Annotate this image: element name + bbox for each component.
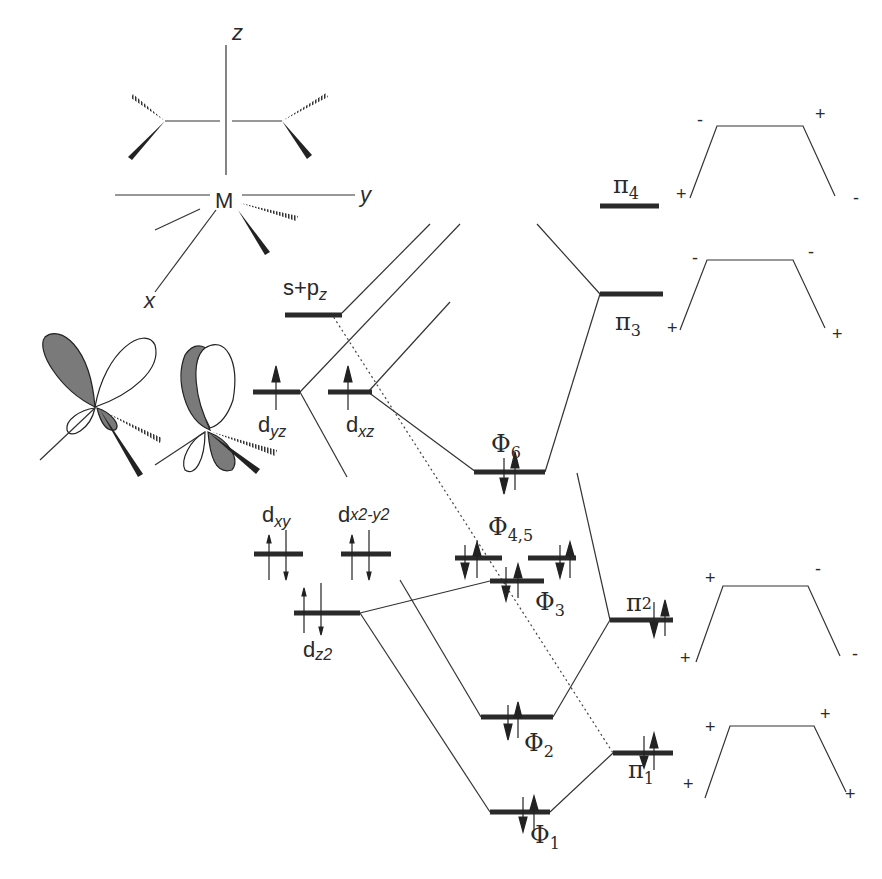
svg-text:+: + <box>815 104 826 124</box>
pictogram-pi1: + + + + <box>683 704 856 804</box>
spin-up-arrow <box>350 535 354 543</box>
spin-down-arrow <box>519 817 527 832</box>
pictogram-pi2: + - + - <box>680 559 858 668</box>
label-dyz: dyz <box>258 412 286 440</box>
hash-bond <box>282 93 328 121</box>
coordinate-frame: z y x M <box>115 20 373 313</box>
spin-up-arrow <box>514 702 522 718</box>
hash-bond <box>131 94 165 121</box>
label-phi45: Φ4,5 <box>488 513 533 545</box>
spin-up-arrow <box>650 733 658 748</box>
label-pi3: π3 <box>615 308 641 340</box>
svg-text:+: + <box>667 318 678 338</box>
spin-down-arrow <box>502 586 510 601</box>
svg-text:+: + <box>820 704 831 724</box>
svg-text:-: - <box>692 248 698 268</box>
label-pi4: π4 <box>613 171 639 203</box>
svg-text:+: + <box>683 774 694 794</box>
label-dx2y2: dx2-y2 <box>338 502 389 527</box>
svg-text:+: + <box>705 717 716 737</box>
spin-down-arrow <box>319 627 323 635</box>
spin-up-arrow <box>473 542 481 556</box>
label-phi6: Φ6 <box>491 430 521 462</box>
spin-down-arrow <box>367 572 371 580</box>
svg-text:+: + <box>705 568 716 588</box>
orbital-labels: s+pz dyz dxz dxy dx2-y2 dz2 Φ6 Φ4,5 Φ3 Φ… <box>258 171 654 853</box>
label-phi3: Φ3 <box>535 588 565 620</box>
label-pi2: π2 <box>626 589 652 617</box>
spin-down-arrow <box>284 572 288 580</box>
svg-text:-: - <box>815 559 821 579</box>
label-dz2: dz2 <box>303 637 332 663</box>
label-pi1: π1 <box>628 756 654 788</box>
svg-text:+: + <box>680 648 691 668</box>
svg-text:+: + <box>676 184 687 204</box>
wedge-bond <box>282 121 312 159</box>
spin-up-arrow <box>344 366 352 382</box>
ligand-bond <box>155 209 200 230</box>
label-phi1: Φ1 <box>530 821 560 853</box>
hash-bond <box>240 203 298 221</box>
label-dxy: dxy <box>262 502 291 530</box>
spin-up-arrow <box>267 535 271 543</box>
spin-down-arrow <box>504 724 512 740</box>
spin-down-arrow <box>556 563 564 578</box>
spin-up-arrow <box>661 600 669 616</box>
mo-diagram: z y x M <box>0 0 882 879</box>
x-axis <box>155 210 216 292</box>
wedge-bond <box>128 121 165 160</box>
svg-text:-: - <box>853 188 859 208</box>
electrons <box>267 366 669 832</box>
label-s-pz: s+pz <box>283 275 327 303</box>
spin-up-arrow <box>530 796 538 810</box>
spin-up-arrow <box>514 564 522 578</box>
z-axis-label: z <box>231 20 243 45</box>
orbital-picture-dxz <box>155 345 277 474</box>
spin-down-arrow <box>650 622 658 637</box>
x-axis-label: x <box>143 288 156 313</box>
metal-label: M <box>215 188 233 213</box>
wedge-bond <box>238 210 270 255</box>
pi-pictograms: - + + - - - + + + - + - + + + + <box>667 104 859 804</box>
svg-text:+: + <box>845 784 856 804</box>
pictogram-pi3: - - + + <box>667 242 843 344</box>
orbital-picture-dyz <box>40 334 162 477</box>
svg-text:-: - <box>808 242 814 262</box>
svg-text:+: + <box>832 324 843 344</box>
spin-down-arrow <box>500 478 508 494</box>
spin-up-arrow <box>566 542 574 556</box>
pictogram-pi4: - + + - <box>676 104 859 208</box>
label-dxz: dxz <box>346 412 374 440</box>
spin-up-arrow <box>302 588 306 596</box>
label-phi2: Φ2 <box>524 729 554 761</box>
y-axis-label: y <box>358 182 373 207</box>
svg-text:-: - <box>852 644 858 664</box>
spin-down-arrow <box>461 563 469 578</box>
svg-text:-: - <box>697 110 703 130</box>
spin-up-arrow <box>272 366 280 382</box>
